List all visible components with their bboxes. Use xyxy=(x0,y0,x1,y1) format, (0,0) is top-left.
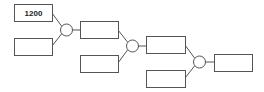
box-g xyxy=(215,55,253,72)
operator-circle-1 xyxy=(61,24,73,36)
box-a-label: 1200 xyxy=(25,9,43,18)
box-c xyxy=(81,22,119,39)
connector-b-op1 xyxy=(52,34,62,46)
box-b xyxy=(15,39,53,56)
box-a: 1200 xyxy=(15,5,53,22)
connector-c-op2 xyxy=(118,30,128,42)
box-e xyxy=(147,37,186,54)
connector-f-op3 xyxy=(185,66,195,78)
operator-circle-2 xyxy=(127,40,139,52)
box-f xyxy=(147,71,186,88)
box-d xyxy=(81,56,119,73)
operator-circle-3 xyxy=(194,56,206,68)
connector-e-op3 xyxy=(185,45,195,58)
connector-d-op2 xyxy=(118,50,128,63)
connector-a-op1 xyxy=(52,13,62,26)
operation-tree-diagram: 1200 xyxy=(0,0,264,92)
